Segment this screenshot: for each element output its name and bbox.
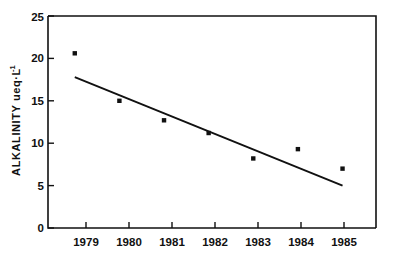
x-tick-label-1985: 1985 (331, 236, 357, 248)
data-point (340, 166, 344, 170)
data-point (117, 99, 121, 103)
y-tick-label-0: 0 (38, 222, 44, 234)
x-tick-label-1984: 1984 (288, 236, 314, 248)
chart-background (0, 0, 395, 259)
data-point (251, 156, 255, 160)
data-point (206, 131, 210, 135)
data-point (73, 51, 77, 55)
x-tick-label-1982: 1982 (202, 236, 228, 248)
y-axis-title-group: ALKALINITY ueq·L -1 (8, 65, 22, 176)
y-axis-title: ALKALINITY ueq·L (10, 68, 22, 176)
y-tick-label-25: 25 (31, 11, 44, 23)
alkalinity-scatter-chart: 0 5 10 15 20 25 ALKALINITY ueq·L -1 1979… (0, 0, 395, 259)
chart-figure: 0 5 10 15 20 25 ALKALINITY ueq·L -1 1979… (0, 0, 395, 259)
x-tick-label-1981: 1981 (159, 236, 185, 248)
x-tick-label-1979: 1979 (73, 236, 99, 248)
data-point (296, 147, 300, 151)
x-tick-label-1980: 1980 (116, 236, 142, 248)
y-tick-label-15: 15 (31, 95, 44, 107)
x-tick-label-1983: 1983 (245, 236, 271, 248)
y-axis-title-superscript: -1 (8, 65, 17, 72)
y-tick-label-10: 10 (31, 137, 44, 149)
y-tick-label-5: 5 (38, 180, 45, 192)
y-tick-label-20: 20 (31, 52, 44, 64)
data-point (162, 118, 166, 122)
